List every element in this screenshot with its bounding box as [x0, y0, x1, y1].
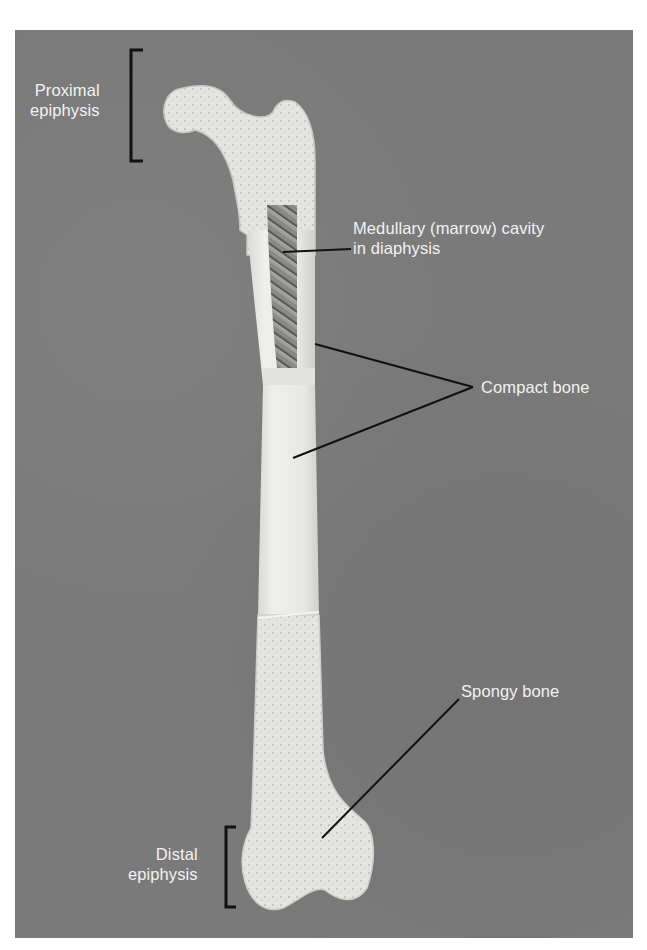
leader-compact-upper — [315, 344, 473, 387]
diaphysis-middle — [258, 385, 319, 615]
label-distal-epiphysis: Distal epiphysis — [128, 844, 198, 884]
label-spongy-bone: Spongy bone — [461, 681, 559, 701]
leader-spongy — [322, 699, 459, 838]
leader-compact-lower — [293, 387, 473, 458]
proximal-bracket — [131, 50, 143, 161]
distal-bracket — [226, 827, 236, 907]
label-medullary-cavity: Medullary (marrow) cavity in diaphysis — [353, 218, 544, 258]
label-compact-bone: Compact bone — [481, 377, 590, 397]
femur-illustration — [15, 30, 633, 938]
distal-epiphysis-shape — [242, 615, 373, 910]
femur-photograph — [15, 30, 633, 938]
label-proximal-epiphysis: Proximal epiphysis — [30, 80, 100, 120]
